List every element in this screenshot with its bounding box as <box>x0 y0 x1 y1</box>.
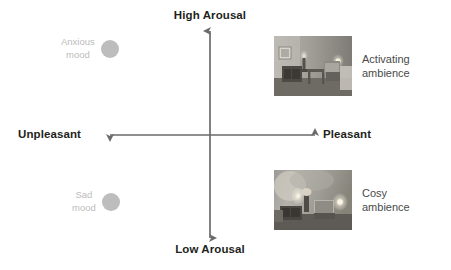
axis-label-unpleasant: Unpleasant <box>18 128 81 140</box>
cosy-ambience-photo <box>274 170 352 230</box>
cosy-ambience-label: Cosy ambience <box>362 186 410 214</box>
axis-label-high-arousal: High Arousal <box>0 9 420 21</box>
quadrant-item-activating-ambience: Activating ambience <box>274 36 410 96</box>
axis-label-pleasant: Pleasant <box>323 128 371 140</box>
axis-label-low-arousal: Low Arousal <box>0 243 420 255</box>
activating-ambience-label: Activating ambience <box>362 52 410 80</box>
diagram-canvas: High Arousal Low Arousal Unpleasant Plea… <box>0 0 451 270</box>
quadrant-item-sad-mood: Sad mood <box>72 189 120 214</box>
activating-ambience-photo <box>274 36 352 96</box>
anxious-mood-marker-icon <box>101 40 119 58</box>
anxious-mood-label: Anxious mood <box>61 36 95 61</box>
sad-mood-label: Sad mood <box>72 189 96 214</box>
quadrant-item-cosy-ambience: Cosy ambience <box>274 170 410 230</box>
sad-mood-marker-icon <box>102 193 120 211</box>
quadrant-item-anxious-mood: Anxious mood <box>61 36 119 61</box>
